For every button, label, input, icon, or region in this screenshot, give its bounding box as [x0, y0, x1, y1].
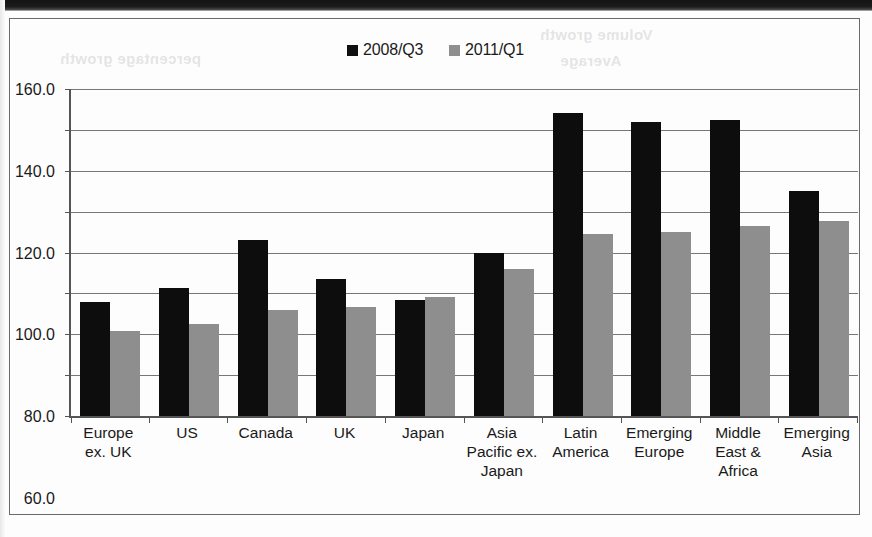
- x-axis-category-label: Japan: [384, 423, 463, 480]
- x-axis-category-label-line: Japan: [464, 461, 541, 480]
- bar-2008-q3: [631, 122, 661, 416]
- x-axis-category-label-line: ex. UK: [70, 442, 147, 461]
- plot-area: 160.0140.0120.0100.080.060.040.020.00.0: [69, 89, 858, 418]
- legend-item-2011q1: 2011/Q1: [449, 41, 524, 59]
- x-axis-tick: [700, 416, 701, 423]
- x-axis-category-label: AsiaPacific ex.Japan: [463, 423, 542, 480]
- x-axis-category-label-line: Latin: [542, 423, 619, 442]
- x-axis-tick: [857, 416, 858, 423]
- chart-legend: 2008/Q3 2011/Q1: [10, 41, 861, 59]
- x-axis-category-label-line: Emerging: [778, 423, 855, 442]
- x-axis-category-label-line: Europe: [621, 442, 698, 461]
- bar-2011-q1: [189, 324, 219, 416]
- y-axis-tick-label: 160.0: [15, 81, 55, 99]
- x-axis-category-label: EmergingEurope: [620, 423, 699, 480]
- x-axis-category-label-line: Pacific ex.: [464, 442, 541, 461]
- scan-artifact-left-edge: [0, 0, 5, 537]
- bar-2011-q1: [425, 297, 455, 416]
- bar-group: [150, 89, 229, 416]
- bar-group: [71, 89, 150, 416]
- bar-group: [386, 89, 465, 416]
- x-axis-category-label-line: Europe: [70, 423, 147, 442]
- legend-label: 2011/Q1: [465, 41, 524, 59]
- x-axis-tick: [621, 416, 622, 423]
- x-axis-category-label-line: Canada: [227, 423, 304, 442]
- x-axis-category-label: US: [148, 423, 227, 480]
- bar-group: [307, 89, 386, 416]
- bar-2011-q1: [661, 232, 691, 416]
- y-axis-tick-label: 60.0: [24, 490, 55, 508]
- bar-2008-q3: [395, 300, 425, 416]
- bar-group: [465, 89, 544, 416]
- bar-2008-q3: [710, 120, 740, 416]
- x-axis-category-label-line: Middle: [700, 423, 777, 442]
- x-axis-category-label-line: UK: [306, 423, 383, 442]
- bar-group: [622, 89, 701, 416]
- bar-2008-q3: [474, 253, 504, 417]
- bar-2008-q3: [159, 288, 189, 416]
- x-axis-category-label: Canada: [226, 423, 305, 480]
- bar-2011-q1: [504, 269, 534, 416]
- bar-group: [779, 89, 858, 416]
- black-square-icon: [347, 45, 358, 56]
- x-axis-category-labels: Europeex. UKUSCanadaUKJapanAsiaPacific e…: [69, 423, 856, 480]
- x-axis-category-label-line: Africa: [700, 461, 777, 480]
- bar-group: [701, 89, 780, 416]
- x-axis-category-label: EmergingAsia: [777, 423, 856, 480]
- x-axis-category-label: Europeex. UK: [69, 423, 148, 480]
- x-axis-category-label: MiddleEast &Africa: [699, 423, 778, 480]
- y-axis-tick-label: 100.0: [15, 326, 55, 344]
- x-axis-category-label: LatinAmerica: [541, 423, 620, 480]
- x-axis-category-label-line: Emerging: [621, 423, 698, 442]
- y-axis-tick-label: 80.0: [24, 408, 55, 426]
- legend-item-2008q3: 2008/Q3: [347, 41, 423, 59]
- bar-2011-q1: [583, 234, 613, 416]
- x-axis-category-label-line: Japan: [385, 423, 462, 442]
- bar-2011-q1: [740, 226, 770, 416]
- bar-2011-q1: [346, 307, 376, 416]
- plot-wrapper: 160.0140.0120.0100.080.060.040.020.00.0: [69, 89, 856, 416]
- x-axis-category-label-line: America: [542, 442, 619, 461]
- bars-layer: [71, 89, 858, 416]
- y-axis-tick-label: 140.0: [15, 163, 55, 181]
- bar-2008-q3: [316, 279, 346, 416]
- x-axis-tick: [464, 416, 465, 423]
- x-axis-category-label-line: Asia: [464, 423, 541, 442]
- bar-2011-q1: [268, 310, 298, 416]
- x-axis-category-label-line: East &: [700, 442, 777, 461]
- bar-2008-q3: [80, 302, 110, 416]
- y-axis-tick-label: 120.0: [15, 245, 55, 263]
- x-axis-tick: [71, 416, 72, 423]
- bar-group: [228, 89, 307, 416]
- gray-square-icon: [449, 45, 460, 56]
- bar-2008-q3: [789, 191, 819, 416]
- x-axis-category-label-line: Asia: [778, 442, 855, 461]
- bar-2008-q3: [238, 240, 268, 416]
- scan-artifact-top-band: [0, 0, 872, 11]
- x-axis-tick: [306, 416, 307, 423]
- x-axis-tick: [385, 416, 386, 423]
- chart-figure-frame: 2008/Q3 2011/Q1 160.0140.0120.0100.080.0…: [9, 18, 860, 515]
- bar-group: [543, 89, 622, 416]
- x-axis-tick: [149, 416, 150, 423]
- x-axis-tick: [542, 416, 543, 423]
- bar-2011-q1: [819, 221, 849, 416]
- x-axis-tick: [778, 416, 779, 423]
- x-axis-category-label-line: US: [149, 423, 226, 442]
- bar-2008-q3: [553, 113, 583, 416]
- x-axis-category-label: UK: [305, 423, 384, 480]
- bar-2011-q1: [110, 331, 140, 416]
- x-axis-tick: [227, 416, 228, 423]
- legend-label: 2008/Q3: [363, 41, 423, 59]
